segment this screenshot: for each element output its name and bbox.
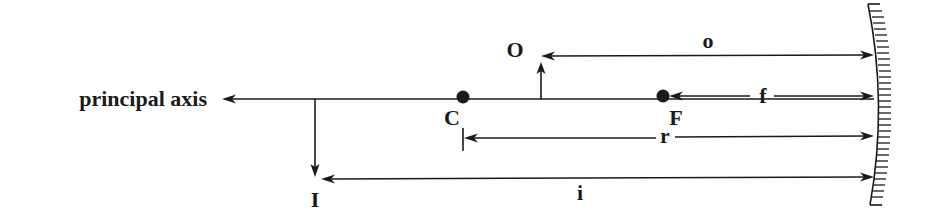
- object-arrow: O: [506, 37, 545, 99]
- focal-length-label: f: [759, 83, 767, 108]
- image-arrow: I: [311, 99, 320, 212]
- dimension-focal-length: f: [669, 83, 874, 108]
- dimension-object-distance: o: [541, 28, 874, 61]
- mirror-ray-diagram: principal axis I O o C F f: [0, 0, 932, 216]
- center-of-curvature-label: C: [444, 105, 460, 130]
- focal-point-label: F: [669, 105, 682, 130]
- object-label: O: [506, 37, 523, 62]
- dimension-radius: r: [464, 123, 874, 148]
- image-distance-label: i: [577, 180, 583, 205]
- dimension-image-distance: i: [321, 173, 874, 206]
- concave-mirror-icon: [868, 4, 891, 205]
- principal-axis-label: principal axis: [79, 86, 207, 111]
- image-label: I: [311, 187, 320, 212]
- principal-axis: principal axis: [79, 86, 874, 111]
- radius-label: r: [660, 123, 670, 148]
- object-distance-label: o: [703, 28, 714, 53]
